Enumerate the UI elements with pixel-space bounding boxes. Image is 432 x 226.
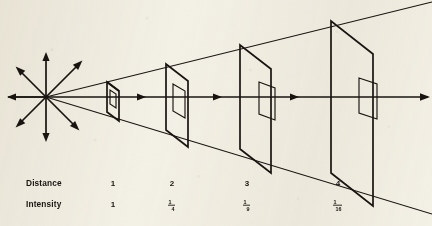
- axis-arrowhead-3: [290, 93, 299, 100]
- source-arrowhead-west: [7, 93, 16, 100]
- source-ray-northwest: [19, 70, 46, 97]
- intensity-value-4-numerator: 1: [334, 199, 337, 205]
- source-arrowhead-south: [42, 133, 49, 142]
- frame-2-inner: [173, 84, 185, 118]
- axis-arrowhead-4: [420, 93, 430, 101]
- intensity-value-2-denominator: 4: [172, 206, 175, 212]
- intensity-value-3-denominator: 9: [247, 206, 250, 212]
- intensity-value-4-denominator: 16: [336, 206, 342, 212]
- distance-value-4: 4: [336, 179, 341, 188]
- axis-arrowhead-2: [213, 93, 222, 100]
- measurement-table: Distance Intensity 1 2 3 4 1 1 4 1 9 1: [26, 178, 342, 212]
- source-ray-northeast: [46, 64, 79, 97]
- cone-lower-edge: [46, 97, 432, 214]
- figure-canvas: Distance Intensity 1 2 3 4 1 1 4 1 9 1: [0, 0, 432, 226]
- light-frame-1: [107, 82, 119, 121]
- frame-3-inner: [259, 82, 275, 120]
- intensity-value-3: 1 9: [243, 199, 250, 212]
- frame-1-outer: [107, 82, 119, 121]
- frame-3-outer: [240, 45, 271, 173]
- axis-arrowhead-1: [137, 93, 146, 100]
- distance-value-1: 1: [111, 179, 116, 188]
- intensity-value-2-numerator: 1: [169, 199, 172, 205]
- intensity-value-4: 1 16: [333, 199, 342, 212]
- row-label-distance: Distance: [26, 178, 62, 188]
- light-frame-3: [240, 45, 275, 173]
- distance-value-3: 3: [245, 179, 250, 188]
- frame-1-inner: [110, 90, 116, 108]
- frame-1-outer-top-back: [107, 82, 119, 91]
- distance-value-2: 2: [170, 179, 175, 188]
- intensity-value-1: 1: [111, 200, 116, 209]
- row-label-intensity: Intensity: [26, 199, 62, 209]
- light-cone: [46, 2, 432, 214]
- intensity-value-3-numerator: 1: [244, 199, 247, 205]
- inverse-square-law-figure: Distance Intensity 1 2 3 4 1 1 4 1 9 1: [0, 0, 432, 226]
- source-ray-southwest: [19, 97, 46, 124]
- intensity-value-2: 1 4: [168, 199, 175, 212]
- source-arrowhead-north: [42, 52, 49, 61]
- frame-4-inner: [359, 78, 377, 119]
- optical-axis: [8, 93, 430, 101]
